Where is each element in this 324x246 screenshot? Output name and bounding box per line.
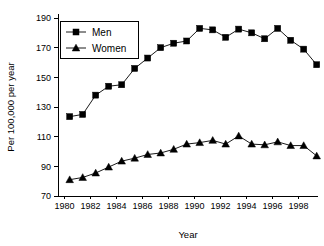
x-tick-label: 1982 [80, 201, 100, 211]
x-tick-label: 1994 [236, 201, 256, 211]
data-point-men [223, 34, 229, 40]
data-point-women [105, 163, 113, 170]
data-point-women [209, 137, 217, 144]
data-point-women [92, 169, 100, 176]
data-point-men [158, 45, 164, 51]
data-point-women [170, 145, 178, 152]
data-point-women [79, 174, 87, 181]
x-tick-label: 1998 [288, 201, 308, 211]
legend: MenWomen [60, 21, 138, 58]
legend-label-men: Men [92, 27, 111, 38]
data-point-women [313, 152, 321, 159]
data-point-men [262, 36, 268, 42]
data-point-men [314, 62, 320, 68]
data-point-men [197, 25, 203, 31]
line-chart: 7090110130150170190198019821984198619881… [0, 0, 324, 246]
y-tick-label: 110 [37, 132, 51, 142]
y-axis-title: Per 100,000 per year [5, 62, 16, 151]
data-point-men [67, 114, 73, 120]
data-point-men [171, 40, 177, 46]
data-point-women [235, 132, 243, 139]
y-tick-label: 150 [36, 73, 51, 83]
data-point-men [288, 37, 294, 43]
data-point-men [236, 26, 242, 32]
data-point-men [106, 83, 112, 89]
x-tick-label: 1988 [158, 201, 178, 211]
data-point-men [210, 27, 216, 33]
data-point-men [93, 92, 99, 98]
y-tick-label: 90 [41, 162, 51, 172]
x-tick-label: 1992 [210, 201, 230, 211]
data-point-women [274, 138, 282, 145]
data-point-men [132, 65, 138, 71]
x-tick-label: 1996 [262, 201, 282, 211]
y-tick-label: 70 [41, 191, 51, 201]
data-point-men [249, 30, 255, 36]
data-point-men [119, 82, 125, 88]
y-tick-label: 170 [36, 43, 51, 53]
data-point-women [248, 140, 256, 147]
legend-label-women: Women [92, 43, 126, 54]
series-women [66, 132, 321, 183]
y-tick-label: 190 [36, 13, 51, 23]
x-tick-label: 1986 [132, 201, 152, 211]
data-point-men [184, 38, 190, 44]
legend-marker-men [73, 29, 79, 35]
x-tick-label: 1990 [184, 201, 204, 211]
chart-figure: 7090110130150170190198019821984198619881… [0, 0, 324, 246]
data-point-men [301, 46, 307, 52]
x-tick-label: 1980 [54, 201, 74, 211]
data-point-men [275, 25, 281, 31]
y-tick-label: 130 [36, 102, 51, 112]
data-point-men [145, 55, 151, 61]
x-axis-title: Year [178, 229, 197, 240]
x-tick-label: 1984 [106, 201, 126, 211]
data-point-men [80, 111, 86, 117]
